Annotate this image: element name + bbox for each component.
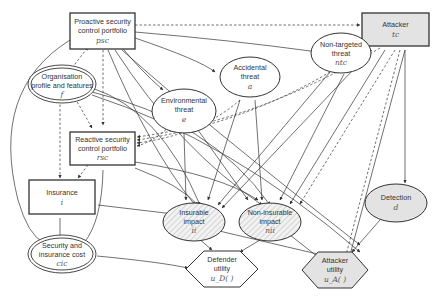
label: Proactive security [74, 17, 131, 26]
symbol: nii [265, 226, 275, 235]
label: Non-insurable [248, 208, 293, 217]
label: threat [241, 72, 259, 81]
symbol: a [248, 82, 252, 91]
node-insurance: Insurance i [29, 180, 95, 214]
label: Attacker [382, 20, 409, 29]
label: impact [259, 217, 280, 226]
node-organisation-profile: Organisation profile and features f [28, 65, 96, 103]
symbol: cic [57, 259, 69, 268]
label: insurance cost [39, 250, 85, 259]
node-accidental-threat: Accidental threat a [220, 57, 280, 97]
label: Accidental [233, 63, 267, 72]
label: threat [175, 105, 193, 114]
symbol: psc [96, 36, 110, 45]
symbol: e [182, 115, 187, 124]
symbol: ntc [335, 58, 348, 67]
label: threat [332, 49, 350, 58]
label: Insurance [46, 188, 78, 197]
node-reactive-security-control-portfolio: Reactive security control portfolio rsc [70, 132, 135, 165]
node-attacker-utility: Attacker utility u_A( ) [302, 252, 368, 288]
influence-diagram: Proactive security control portfolio psc… [0, 0, 441, 297]
node-detection: Detection d [365, 184, 427, 222]
label: Organisation [42, 72, 83, 81]
symbol: ii [192, 226, 197, 235]
symbol: u_A( ) [324, 275, 346, 284]
label: utility [327, 265, 344, 274]
symbol: d [394, 203, 399, 212]
symbol: tc [392, 30, 400, 39]
label: Insurable [179, 208, 209, 217]
node-proactive-security-control-portfolio: Proactive security control portfolio psc [70, 13, 135, 49]
label: Attacker [322, 256, 349, 265]
label: Detection [381, 193, 411, 202]
label: Reactive security [75, 135, 130, 144]
node-environmental-threat: Environmental threat e [152, 89, 216, 133]
label: utility [214, 264, 231, 273]
label: Environmental [161, 96, 207, 105]
label: control portfolio [78, 26, 127, 35]
label: control portfolio [78, 144, 127, 153]
node-non-targeted-threat: Non-targeted threat ntc [311, 33, 371, 73]
symbol: u_D( ) [211, 274, 234, 283]
node-defender-utility: Defender utility u_D( ) [186, 251, 258, 287]
label: profile and features [31, 81, 93, 90]
label: Non-targeted [320, 40, 362, 49]
node-non-insurable-impact: Non-insurable impact nii [239, 203, 301, 241]
label: impact [183, 217, 204, 226]
node-attacker: Attacker tc [362, 13, 429, 46]
label: Defender [207, 255, 237, 264]
symbol: rsc [97, 153, 109, 162]
label: Security and [42, 241, 82, 250]
node-security-insurance-cost: Security and insurance cost cic [28, 235, 96, 273]
node-insurable-impact: Insurable impact ii [163, 203, 225, 241]
